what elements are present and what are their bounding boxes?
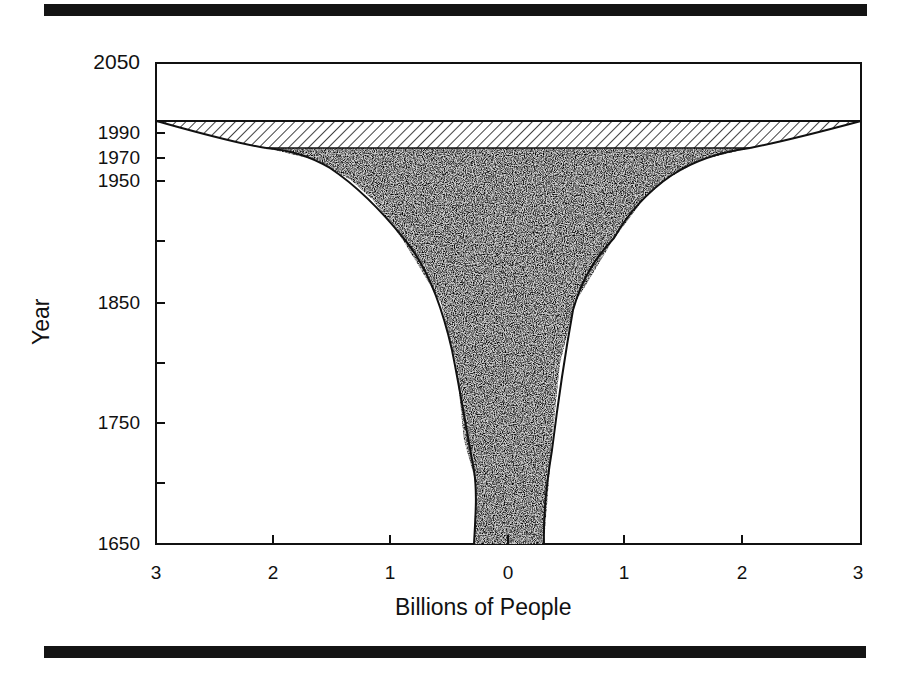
y-tick-1970: 1970 (50, 148, 140, 168)
x-tick-label: 1 (609, 563, 639, 583)
y-tick-1650: 1650 (50, 534, 140, 554)
y-tick-1950: 1950 (50, 171, 140, 191)
x-tick-label: 1 (375, 563, 405, 583)
y-tick-1850: 1850 (50, 293, 140, 313)
x-axis-title: Billions of People (395, 594, 571, 621)
x-tick-label: 2 (258, 563, 288, 583)
y-axis-title: Year (28, 299, 55, 345)
x-tick-label: 3 (843, 563, 873, 583)
x-tick-label: 0 (493, 563, 523, 583)
chart-plot (0, 0, 913, 673)
y-tick-1750: 1750 (50, 413, 140, 433)
x-tick-label: 3 (141, 563, 171, 583)
y-tick-1990: 1990 (50, 123, 140, 143)
x-tick-label: 2 (727, 563, 757, 583)
y-tick-2050: 2050 (50, 52, 140, 72)
